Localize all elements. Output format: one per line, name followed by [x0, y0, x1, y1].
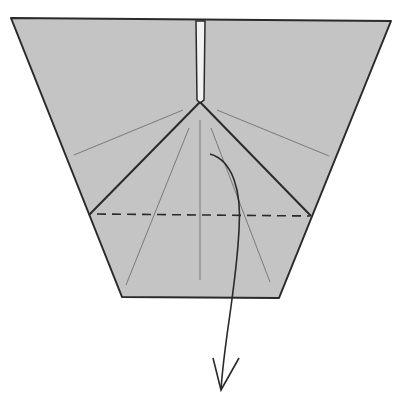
origami-diagram — [0, 0, 400, 406]
center-slot — [196, 21, 205, 103]
arrowhead-icon — [213, 358, 239, 390]
